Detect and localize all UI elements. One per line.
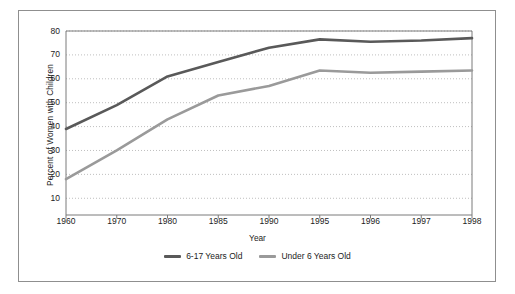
x-tick-label: 1995 bbox=[297, 216, 343, 226]
legend-entry-0: 6-17 Years Old bbox=[164, 252, 242, 261]
legend-label: 6-17 Years Old bbox=[186, 252, 242, 261]
x-tick-label: 1985 bbox=[195, 216, 241, 226]
chart-figure: 1020304050607080 19601970198019851990199… bbox=[0, 0, 515, 294]
line-chart-svg bbox=[0, 0, 515, 294]
legend-swatch-icon bbox=[164, 255, 181, 258]
legend-swatch-icon bbox=[259, 255, 276, 258]
x-tick-label: 1980 bbox=[145, 216, 191, 226]
chart-plot-area: 1020304050607080 19601970198019851990199… bbox=[0, 0, 515, 294]
chart-legend: 6-17 Years OldUnder 6 Years Old bbox=[0, 252, 515, 261]
x-tick-label: 1996 bbox=[348, 216, 394, 226]
x-tick-label: 1990 bbox=[246, 216, 292, 226]
series-line-0 bbox=[66, 38, 472, 129]
gridlines bbox=[66, 31, 472, 198]
x-tick-label: 1998 bbox=[449, 216, 495, 226]
x-tick-label: 1970 bbox=[94, 216, 140, 226]
y-axis-title: Percent of Women with Children bbox=[45, 30, 55, 220]
axis-lines bbox=[66, 31, 472, 215]
data-series bbox=[66, 38, 472, 179]
x-tick-label: 1997 bbox=[398, 216, 444, 226]
series-line-1 bbox=[66, 70, 472, 179]
legend-label: Under 6 Years Old bbox=[281, 252, 350, 261]
x-axis-title: Year bbox=[0, 233, 515, 243]
legend-entry-1: Under 6 Years Old bbox=[259, 252, 350, 261]
